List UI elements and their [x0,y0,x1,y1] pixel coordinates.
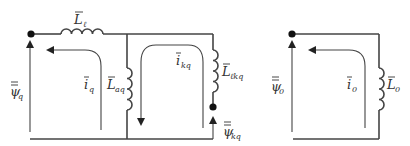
svg-text:aq: aq [115,85,125,94]
label-leakage-inductance: L ℓ [73,12,87,29]
zero-sequence-circuit: ψ 0 i 0 L 0 [271,30,400,139]
svg-text:kq: kq [231,132,241,141]
leakage-inductor-icon [61,29,103,34]
label-damper-flux: ψ kq [223,122,241,141]
svg-text:ℓ: ℓ [83,20,87,29]
svg-text:0: 0 [395,85,400,94]
damper-terminal-dot-icon [209,103,216,110]
svg-text:q: q [18,92,23,101]
zero-inductor-icon [379,68,384,110]
label-damper-current: i kq [176,53,191,70]
svg-text:i: i [84,77,88,92]
damper-inductor-icon [213,50,218,92]
zero-terminal-dot-icon [288,30,295,37]
damper-current-arrow-icon [141,45,203,128]
label-zero-current: i 0 [347,77,357,94]
svg-text:0: 0 [279,87,284,96]
svg-text:q: q [89,85,94,94]
label-magnetizing-inductance: L aq [106,77,125,94]
label-stator-flux: ψ q [10,82,23,101]
circuit-diagram: L ℓ ψ q i q L aq i kq L ℓkq [0,0,410,146]
terminal-dot-icon [27,30,34,37]
svg-text:0: 0 [352,85,357,94]
svg-text:ℓkq: ℓkq [230,72,243,81]
svg-text:i: i [347,77,351,92]
label-damper-inductance: L ℓkq [221,64,243,81]
q-axis-circuit: L ℓ ψ q i q L aq i kq L ℓkq [10,12,243,141]
svg-text:kq: kq [181,61,191,70]
label-zero-inductance: L 0 [386,77,400,94]
svg-text:i: i [176,53,180,68]
svg-text:L: L [73,12,83,27]
label-stator-current: i q [84,77,94,94]
label-zero-flux: ψ 0 [271,77,284,96]
magnetizing-inductor-icon [127,68,132,110]
